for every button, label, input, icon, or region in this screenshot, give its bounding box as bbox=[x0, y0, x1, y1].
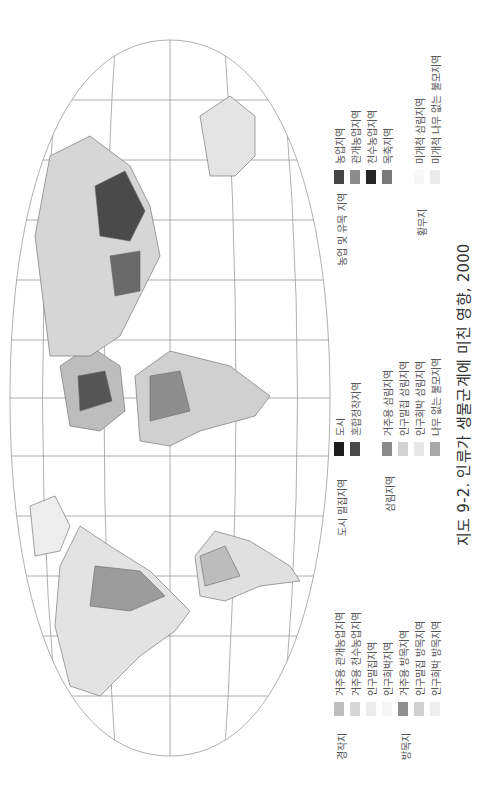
legend-group-title: 도시 밀집지역 bbox=[334, 479, 349, 536]
legend-item: 나무 없는 불모지역 bbox=[428, 358, 442, 456]
legend-item: 도시 bbox=[332, 418, 346, 456]
rotated-page: 경작지 거주용 관개농업지역 거주용 천수농업지역 인구밀집지역 인구희박지역 … bbox=[0, 0, 484, 796]
legend-group-title: 농업 및 유목 지역 bbox=[334, 193, 349, 266]
legend-swatch bbox=[366, 702, 376, 716]
greenland bbox=[30, 496, 70, 556]
legend-item: 목축지역 bbox=[380, 128, 394, 184]
legend-item: 거주용 방목지역 bbox=[396, 630, 410, 716]
legend-group-title: 방목지 bbox=[398, 733, 413, 760]
legend-item: 거주용 삼림지역 bbox=[380, 370, 394, 456]
legend-swatch bbox=[350, 442, 360, 456]
legend-group-title: 삼림지역 bbox=[382, 476, 397, 512]
legend-swatch bbox=[398, 702, 408, 716]
legend-swatch bbox=[398, 442, 408, 456]
world-map bbox=[0, 0, 340, 796]
legend-swatch bbox=[382, 170, 392, 184]
legend-item: 인구밀집지역 bbox=[364, 642, 378, 716]
legend-group-title: 경작지 bbox=[334, 733, 349, 760]
legend-swatch bbox=[430, 442, 440, 456]
legend-item: 인구희박지역 bbox=[380, 642, 394, 716]
legend-swatch bbox=[334, 442, 344, 456]
legend-swatch bbox=[334, 702, 344, 716]
legend-swatch bbox=[382, 442, 392, 456]
legend-item: 인구밀집 삼림지역 bbox=[396, 361, 410, 456]
legend-item: 인구희박 방목지역 bbox=[428, 621, 442, 716]
legend-group-title: 황무지 bbox=[414, 209, 429, 236]
legend-swatch bbox=[414, 702, 424, 716]
legend-swatch bbox=[414, 442, 424, 456]
legend-swatch bbox=[350, 170, 360, 184]
legend-item: 미개척 삼림지역 bbox=[412, 98, 426, 184]
legend-swatch bbox=[366, 170, 376, 184]
legend-item: 농업지역 bbox=[332, 128, 346, 184]
legend-item: 혼합정착지역 bbox=[348, 382, 362, 456]
australia bbox=[200, 96, 255, 176]
figure-caption: 지도 9-2. 인류가 생물군계에 미친 영향, 2000 bbox=[452, 243, 473, 546]
asia bbox=[35, 136, 160, 356]
legend-item: 인구희박 삼림지역 bbox=[412, 361, 426, 456]
map-legend: 경작지 거주용 관개농업지역 거주용 천수농업지역 인구밀집지역 인구희박지역 … bbox=[330, 0, 450, 796]
legend-item: 거주용 천수농업지역 bbox=[348, 612, 362, 716]
continents bbox=[30, 96, 300, 696]
legend-swatch bbox=[334, 170, 344, 184]
legend-swatch bbox=[430, 702, 440, 716]
legend-swatch bbox=[430, 170, 440, 184]
legend-swatch bbox=[382, 702, 392, 716]
legend-item: 인구밀집 방목지역 bbox=[412, 621, 426, 716]
legend-item: 거주용 관개농업지역 bbox=[332, 612, 346, 716]
legend-swatch bbox=[350, 702, 360, 716]
legend-item: 관개농업지역 bbox=[348, 110, 362, 184]
legend-item: 미개척 나무 없는 불모지역 bbox=[428, 55, 442, 184]
legend-item: 천수농업지역 bbox=[364, 110, 378, 184]
legend-swatch bbox=[414, 170, 424, 184]
